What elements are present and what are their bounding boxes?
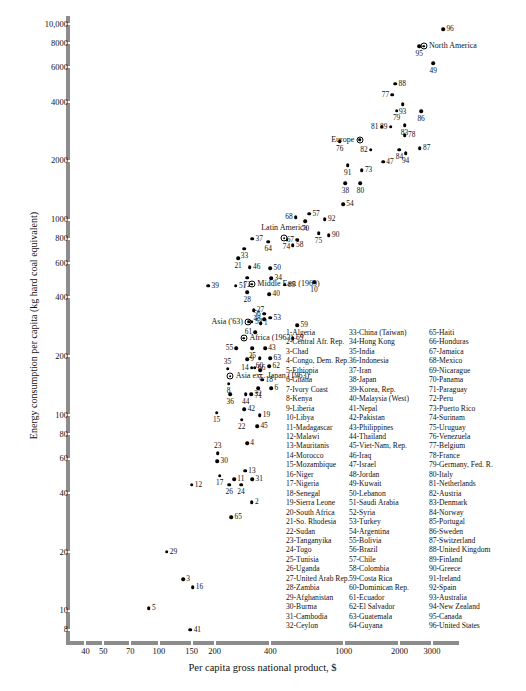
data-point [235,346,239,350]
data-point-label: 80 [357,187,364,194]
data-point [191,585,195,589]
data-point-label: 41 [194,626,201,633]
x-tick-mark [269,641,271,645]
legend-item: 74-Surinam [429,413,526,422]
aggregate-marker-label: Middle East (1969) [257,280,319,288]
legend-item: 28-Zambia [286,583,349,592]
y-tick-label: 6000 [51,63,68,72]
legend-item: 39-Korea, Rep. [349,385,429,394]
y-tick-label: 10,000 [45,20,68,29]
legend-column-3: 65-Haiti66-Honduras67-Jamaica68-Mexico69… [429,328,526,631]
y-tick-label: 8000 [51,39,68,48]
y-tick-label: 600 [55,259,68,268]
data-point [389,125,393,129]
legend-item: 3-Chad [286,347,349,356]
data-point-label: 17 [216,479,223,486]
x-tick-label: 3000 [423,647,440,656]
data-point [250,500,254,504]
data-point [323,217,327,221]
legend-item: 30-Burma [286,602,349,611]
data-point-label: 94 [402,157,409,164]
data-point-label: 87 [423,144,430,151]
y-tick-label: 200 [55,352,68,361]
aggregate-marker-label: North America [429,42,477,50]
data-point-label: 55 [226,345,233,352]
data-point-label: 88 [399,80,406,87]
data-point-label: 37 [256,235,263,242]
data-point-label: 86 [417,115,424,122]
legend-item: 89-Finland [429,555,526,564]
legend-item: 63-Guatemala [349,612,429,621]
data-point-label: 54 [346,200,353,207]
data-point-label: 49 [430,67,437,74]
data-point [216,460,220,464]
x-axis-title: Per capita gross national product, $ [66,662,459,673]
data-point-label: 24 [237,488,244,495]
data-point-label: 74 [283,243,290,250]
data-point-label: 40 [272,291,279,298]
legend-item: 36-Indonesia [349,356,429,365]
data-point [236,256,240,260]
legend-item: 86-Sweden [429,527,526,536]
legend-item: 16-Niger [286,470,349,479]
data-point-label: 75 [315,237,322,244]
data-point-label: 19 [263,411,270,418]
legend-item: 10-Libya [286,413,349,422]
data-point [227,483,231,487]
data-point-label: 43 [268,345,275,352]
data-point-label: 5 [152,604,156,611]
data-point [232,477,236,481]
data-point-label: 96 [446,26,453,33]
legend-item: 71-Paraguay [429,385,526,394]
data-point [269,387,273,391]
legend-item: 23-Tanganyika [286,536,349,545]
data-point [243,408,247,412]
legend-item: 84-Norway [429,508,526,517]
data-point [147,606,151,610]
x-tick-mark [398,641,400,645]
legend-item: 62-El Salvador [349,602,429,611]
legend-item: 54-Argentina [349,527,429,536]
data-point [251,237,255,241]
y-tick-label: 40 [60,489,69,498]
legend-item: 59-Costa Rica [349,574,429,583]
legend-item: 95-Canada [429,612,526,621]
data-point [234,284,238,288]
data-point [346,163,350,167]
data-point-label: 64 [265,245,272,252]
legend-item: 32-Ceylon [286,621,349,630]
data-point-label: 14 [241,364,248,371]
data-point-label: 62 [272,363,279,370]
data-point [255,424,259,428]
legend-item: 14-Morocco [286,451,349,460]
data-point [419,110,423,114]
data-point-label: 51 [239,282,246,289]
data-point [245,441,249,445]
data-point [418,146,422,150]
data-point-label: 9 [250,356,254,363]
x-tick-label: 150 [185,647,198,656]
data-point [404,152,408,156]
data-point [227,382,231,386]
data-point-label: 57 [312,210,319,217]
legend-item: 46-Iraq [349,451,429,460]
y-tick-label: 100 [55,411,68,420]
data-point [243,247,247,251]
data-point-label: 91 [344,169,351,176]
aggregate-marker-icon [356,136,363,143]
legend-column-2: 33-China (Taiwan)34-Hong Kong35-India36-… [349,328,429,631]
data-point-label: 39 [212,282,219,289]
y-tick-label: 60 [60,454,69,463]
data-point [239,483,243,487]
data-point [398,148,402,152]
legend-item: 96-United States [429,621,526,630]
data-point-label: 53 [273,314,280,321]
data-point-label: 2 [255,498,259,505]
data-point-label: 35 [224,358,231,365]
legend-item: 31-Cambodia [286,612,349,621]
legend-item: 27-United Arab Rep. [286,574,349,583]
data-point [341,202,345,206]
legend-item: 67-Jamaica [429,347,526,356]
data-point [229,516,233,520]
legend-item: 17-Nigeria [286,479,349,488]
